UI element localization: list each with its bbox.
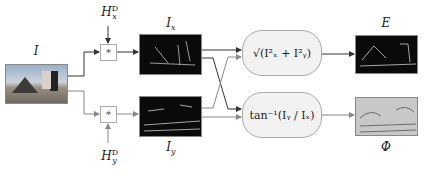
orientation-operation: tan⁻¹(Iᵧ / Iₓ) (242, 92, 322, 138)
gradient-x-label: Ix (160, 16, 182, 32)
kernel-y-label: HDy (96, 148, 122, 165)
magnitude-operation: √(I²ₓ + I²ᵧ) (242, 30, 322, 76)
kernel-x-label: HDx (96, 4, 122, 21)
gradient-x-image (139, 34, 202, 75)
convolution-x-box: * (100, 44, 117, 61)
orientation-output-label: Φ (378, 140, 394, 154)
convolution-y-box: * (100, 106, 117, 123)
orientation-output-image (355, 97, 418, 136)
input-label: I (28, 44, 44, 58)
magnitude-output-label: E (378, 16, 394, 30)
gradient-y-label: Iy (160, 140, 182, 156)
input-image (5, 64, 68, 104)
gradient-y-image (139, 96, 202, 137)
magnitude-output-image (355, 35, 418, 74)
